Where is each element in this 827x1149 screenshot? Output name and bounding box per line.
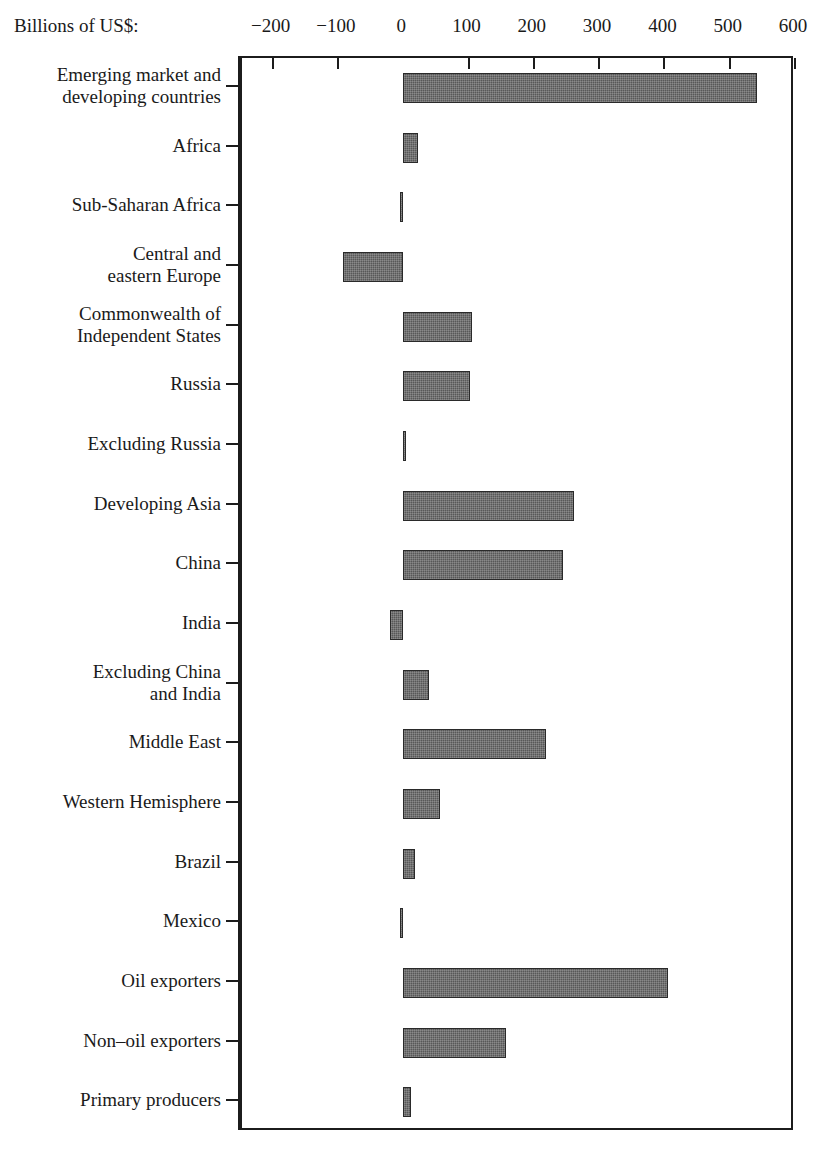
bar [403,968,667,998]
y-tick-mark [226,503,238,505]
category-label: Commonwealth of Independent States [77,303,221,347]
bar [403,670,428,700]
x-tick-label--100: −100 [316,15,355,37]
bar [403,1028,506,1058]
category-label: Developing Asia [94,493,221,515]
bar [403,789,440,819]
x-tick-label-600: 600 [779,15,808,37]
x-tick-label-300: 300 [583,15,612,37]
x-tick-mark-600 [794,58,796,69]
bar [403,550,563,580]
y-tick-mark [226,1099,238,1101]
bar [403,849,415,879]
y-tick-mark [226,264,238,266]
category-label: Excluding Russia [87,433,221,455]
bar [403,431,406,461]
category-label: Brazil [175,851,221,873]
category-label: Middle East [129,731,221,753]
bars-container [240,58,791,1128]
bar [403,133,418,163]
y-tick-mark [226,920,238,922]
y-tick-mark [226,383,238,385]
x-tick-label-0: 0 [396,15,406,37]
y-tick-mark [226,145,238,147]
bar [403,729,545,759]
y-tick-mark [226,980,238,982]
y-tick-mark [226,85,238,87]
y-tick-mark [226,204,238,206]
category-label: Russia [170,373,221,395]
x-tick-label--200: −200 [251,15,290,37]
category-label: Oil exporters [121,970,221,992]
bar [390,610,403,640]
bar [400,908,403,938]
x-axis-tick-labels: −200−1000100200300400500600 [0,15,827,39]
x-tick-label-500: 500 [713,15,742,37]
y-tick-mark [226,324,238,326]
bar [403,1087,411,1117]
y-tick-mark [226,682,238,684]
y-tick-mark [226,1040,238,1042]
category-label: Sub-Saharan Africa [72,194,221,216]
bar [403,371,470,401]
x-tick-label-100: 100 [452,15,481,37]
x-tick-label-400: 400 [648,15,677,37]
x-tick-label-200: 200 [518,15,547,37]
category-label: Emerging market and developing countries [57,64,221,108]
category-label: Africa [172,135,221,157]
category-label: Central and eastern Europe [108,243,221,287]
bar [403,491,573,521]
y-tick-mark [226,562,238,564]
category-label: China [176,552,221,574]
category-label: Primary producers [80,1089,221,1111]
bar [403,312,472,342]
bar [400,192,403,222]
y-tick-mark [226,622,238,624]
bar [403,73,757,103]
y-tick-mark [226,443,238,445]
category-label: India [182,612,221,634]
plot-area [238,56,793,1130]
category-label: Western Hemisphere [63,791,221,813]
y-tick-mark [226,801,238,803]
category-label: Mexico [163,910,221,932]
y-tick-mark [226,741,238,743]
bar [343,252,403,282]
category-label: Non–oil exporters [83,1030,221,1052]
y-tick-mark [226,861,238,863]
category-label: Excluding China and India [93,661,221,705]
